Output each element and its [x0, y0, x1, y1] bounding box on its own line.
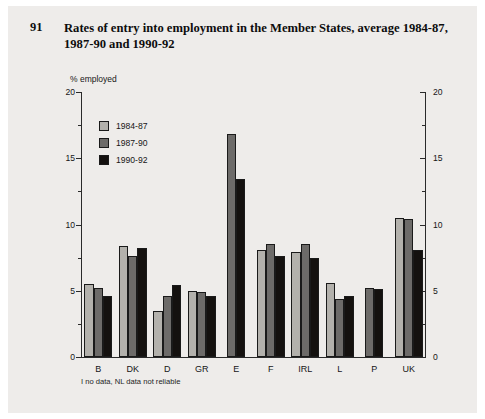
- x-tick-label-l: L: [323, 364, 358, 375]
- bar: [395, 218, 404, 357]
- bar: [137, 248, 146, 357]
- x-tick-label-d: D: [150, 364, 185, 375]
- legend-swatch: [99, 138, 109, 148]
- y-tick-major: [420, 158, 426, 159]
- y-tick-label: 15: [55, 153, 75, 163]
- x-tick-label-dk: DK: [116, 364, 151, 375]
- footnote: I no data, NL data not reliable: [81, 377, 180, 386]
- x-tick-label-gr: GR: [185, 364, 220, 375]
- bar: [335, 299, 344, 357]
- bar: [103, 296, 112, 357]
- y-tick-minor: [422, 191, 426, 192]
- figure-number: 91: [30, 20, 43, 35]
- x-tick-label-b: B: [81, 364, 116, 375]
- bar: [119, 246, 128, 357]
- bar: [128, 256, 137, 357]
- legend-item: 1984-87: [99, 116, 148, 133]
- bar: [275, 256, 284, 357]
- y-tick-label: 10: [433, 220, 453, 230]
- bar: [188, 291, 197, 357]
- legend-swatch: [99, 155, 109, 165]
- y-tick-label: 5: [55, 286, 75, 296]
- legend: 1984-871987-901990-92: [99, 116, 148, 167]
- x-axis: [81, 357, 426, 358]
- legend-item: 1990-92: [99, 150, 148, 167]
- bar: [172, 285, 181, 357]
- y-tick-minor: [78, 258, 82, 259]
- y-tick-major: [420, 225, 426, 226]
- figure-panel: 91 Rates of entry into employment in the…: [8, 6, 477, 413]
- y-tick-major: [76, 92, 82, 93]
- y-tick-label: 5: [433, 286, 453, 296]
- x-tick-label-p: P: [357, 364, 392, 375]
- y-tick-major: [76, 225, 82, 226]
- y-axis-title: % employed: [70, 74, 117, 84]
- y-tick-major: [76, 291, 82, 292]
- bar: [197, 292, 206, 357]
- y-tick-label: 15: [433, 153, 453, 163]
- bar: [236, 179, 245, 357]
- y-tick-minor: [78, 324, 82, 325]
- bar: [291, 252, 300, 357]
- legend-label: 1990-92: [116, 155, 148, 165]
- y-tick-major: [76, 158, 82, 159]
- legend-label: 1984-87: [116, 121, 148, 131]
- bar: [344, 296, 353, 357]
- x-tick-label-f: F: [254, 364, 289, 375]
- y-tick-major: [420, 357, 426, 358]
- legend-swatch: [99, 121, 109, 131]
- bar: [153, 311, 162, 357]
- bar: [84, 284, 93, 357]
- legend-item: 1987-90: [99, 133, 148, 150]
- page-title: Rates of entry into employment in the Me…: [64, 20, 454, 52]
- x-tick-label-uk: UK: [392, 364, 427, 375]
- bar: [310, 258, 319, 357]
- y-tick-minor: [422, 324, 426, 325]
- bar: [266, 244, 275, 357]
- bar: [206, 296, 215, 357]
- bar: [404, 219, 413, 357]
- x-tick-label-e: E: [219, 364, 254, 375]
- bar: [227, 134, 236, 357]
- y-tick-label: 20: [433, 87, 453, 97]
- y-tick-major: [420, 92, 426, 93]
- bar: [413, 250, 422, 357]
- bar: [94, 288, 103, 357]
- legend-label: 1987-90: [116, 138, 148, 148]
- x-tick-label-irl: IRL: [288, 364, 323, 375]
- bar: [365, 288, 374, 357]
- bar: [163, 296, 172, 357]
- y-tick-minor: [78, 125, 82, 126]
- bar: [257, 250, 266, 357]
- y-tick-minor: [422, 125, 426, 126]
- y-tick-minor: [422, 258, 426, 259]
- y-tick-label: 20: [55, 87, 75, 97]
- y-tick-minor: [78, 191, 82, 192]
- y-tick-label: 0: [55, 352, 75, 362]
- y-tick-major: [76, 357, 82, 358]
- bar: [301, 244, 310, 357]
- bar: [326, 283, 335, 357]
- bar: [374, 289, 383, 357]
- y-tick-label: 0: [433, 352, 453, 362]
- y-tick-label: 10: [55, 220, 75, 230]
